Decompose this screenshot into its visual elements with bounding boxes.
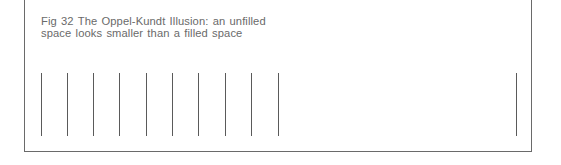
filled-space-line	[146, 73, 147, 136]
filled-space-line	[93, 73, 94, 136]
caption-line-1: Fig 32 The Oppel-Kundt Illusion: an unfi…	[41, 16, 301, 28]
filled-space-line	[41, 73, 42, 136]
filled-space-line	[251, 73, 252, 136]
filled-space-line	[225, 73, 226, 136]
filled-space-line	[119, 73, 120, 136]
filled-space-line	[172, 73, 173, 136]
filled-space-line	[198, 73, 199, 136]
caption-line-2: space looks smaller than a filled space	[41, 28, 301, 40]
filled-space-line	[67, 73, 68, 136]
figure-caption: Fig 32 The Oppel-Kundt Illusion: an unfi…	[41, 16, 301, 39]
unfilled-space-line	[516, 73, 517, 136]
filled-space-line	[278, 73, 279, 136]
